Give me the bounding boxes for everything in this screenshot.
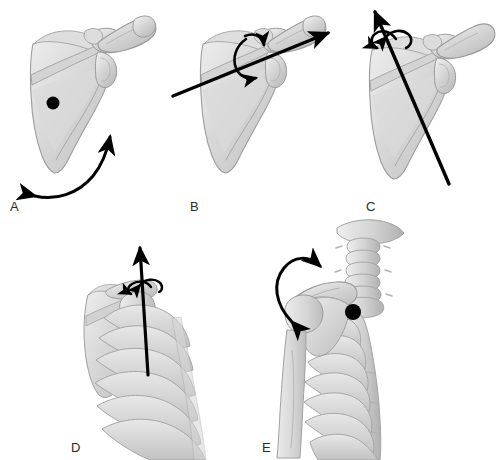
scapula-c [369,24,494,179]
anatomical-figure: A B C D E [0,0,498,460]
figure-canvas [0,0,498,460]
panel-label-e: E [262,441,271,454]
panel-label-d: D [71,441,81,454]
panel-b-illustration [173,16,328,173]
panel-c-illustration [369,12,494,184]
scapula-a [30,16,155,173]
panel-label-c: C [366,200,376,213]
panel-a-illustration [30,16,155,198]
panel-label-a: A [10,200,19,213]
panel-label-b: B [190,200,199,213]
rotation-axis-dot-e [345,304,361,320]
rotation-axis-dot-a [47,97,60,110]
panel-d-illustration [84,248,206,460]
panel-e-illustration [277,220,404,460]
